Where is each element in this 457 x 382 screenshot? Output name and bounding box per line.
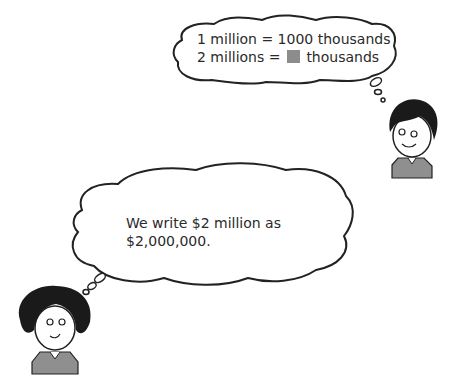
boy-character <box>389 99 437 178</box>
bottom-bubble-dots <box>83 272 107 295</box>
line-2-prefix: 2 millions = <box>197 49 280 65</box>
top-bubble-line-1: 1 million = 1000 thousands <box>197 30 390 48</box>
girl-character <box>19 286 91 374</box>
bottom-bubble-line-1: We write $2 million as <box>126 214 281 232</box>
bottom-bubble-line-2: $2,000,000. <box>126 232 211 250</box>
top-bubble-dots <box>369 76 385 102</box>
line-2-suffix: thousands <box>306 49 379 65</box>
answer-blank-box <box>287 50 300 63</box>
top-bubble-line-2: 2 millions = thousands <box>197 48 379 66</box>
